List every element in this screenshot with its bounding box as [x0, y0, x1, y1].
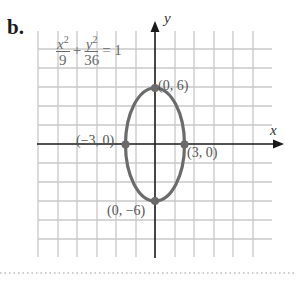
point-neg3-0 — [122, 141, 130, 149]
x-axis-arrow-icon — [273, 140, 284, 149]
point-0-neg6 — [151, 197, 159, 205]
y-axis-arrow-icon — [151, 21, 160, 32]
y-axis-label: y — [164, 10, 171, 27]
x-axis-label: x — [270, 122, 277, 139]
point-label-3-0: (3, 0) — [187, 145, 217, 161]
point-label-neg3-0: (−3, 0) — [76, 133, 114, 149]
fraction-x: x2 9 — [56, 33, 70, 67]
part-label: b. — [7, 15, 24, 40]
ellipse-equation: x2 9 + y2 36 = 1 — [56, 33, 125, 67]
ellipse-graph — [0, 0, 297, 284]
point-label-0-6: (0, 6) — [158, 78, 188, 94]
point-label-0-neg6: (0, −6) — [107, 203, 145, 219]
fraction-y: y2 36 — [84, 33, 99, 67]
